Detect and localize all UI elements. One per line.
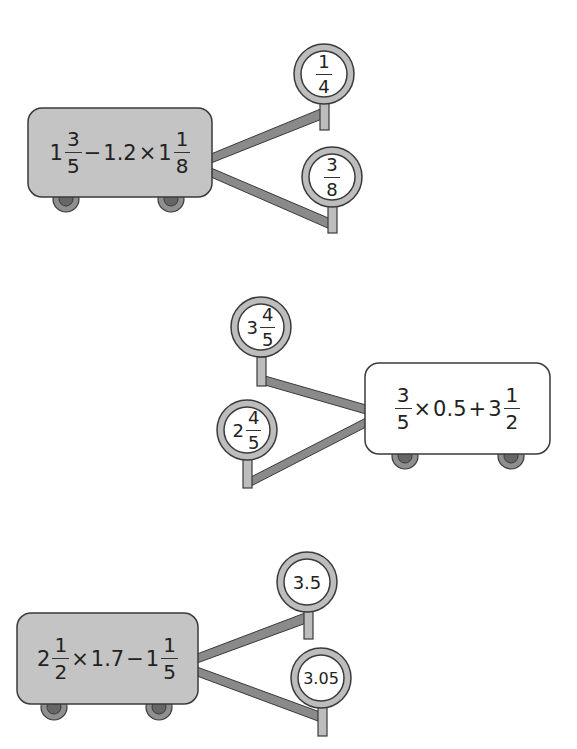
operator: −: [84, 141, 102, 165]
whole-number: 1: [50, 141, 63, 165]
decimal: 1.7: [91, 647, 124, 671]
denominator: 5: [246, 431, 261, 452]
whole-number: 2: [233, 420, 244, 441]
cart-3-expression: 2 1 2 × 1.7 − 1 1 5: [17, 613, 198, 704]
denominator: 5: [65, 153, 82, 176]
fraction: 1 5: [161, 635, 178, 682]
worksheet-diagram: 1 3 5 − 1.2 × 1 1 8 1 4 3 8 3 5 × 0.5 +: [0, 0, 577, 749]
whole-number: 3: [247, 317, 258, 338]
cart-3-post-lower: [318, 707, 327, 736]
cart-1-answer-2: 3 8: [309, 154, 355, 200]
fraction: 1 2: [504, 385, 521, 432]
cart-3-link-upper: [197, 613, 309, 663]
fraction: 1 4: [316, 53, 331, 96]
cart-2-answer-2: 2 4 5: [224, 407, 270, 453]
cart-3-post-upper: [304, 611, 313, 639]
numerator: 1: [504, 385, 521, 409]
cart-2-post-upper: [257, 357, 266, 386]
cart-1-expression: 1 3 5 − 1.2 × 1 1 8: [28, 108, 212, 197]
denominator: 2: [504, 409, 521, 432]
answer-value: 3.5: [293, 572, 322, 593]
operator: ×: [139, 141, 157, 165]
operator: ×: [414, 397, 432, 421]
numerator: 3: [324, 156, 339, 178]
denominator: 2: [52, 659, 69, 682]
denominator: 8: [324, 178, 339, 199]
numerator: 3: [395, 385, 412, 409]
fraction: 3 5: [395, 385, 412, 432]
fraction: 4 5: [260, 306, 275, 349]
cart-2-post-lower: [243, 459, 252, 488]
whole-number: 1: [158, 141, 171, 165]
cart-3-answer-2: 3.05: [298, 655, 344, 701]
decimal: 0.5: [433, 397, 466, 421]
numerator: 1: [52, 635, 69, 659]
operator: +: [469, 397, 487, 421]
numerator: 1: [161, 635, 178, 659]
operator: −: [126, 647, 144, 671]
fraction: 3 5: [65, 129, 82, 176]
numerator: 3: [65, 129, 82, 153]
whole-number: 3: [488, 397, 501, 421]
cart-3-answer-1: 3.5: [284, 559, 330, 605]
cart-2-link-upper: [265, 376, 366, 414]
numerator: 1: [316, 53, 331, 75]
fraction: 1 2: [52, 635, 69, 682]
denominator: 5: [395, 409, 412, 432]
denominator: 4: [316, 75, 331, 96]
fraction: 3 8: [324, 156, 339, 199]
cart-1-post-upper: [320, 103, 329, 130]
numerator: 4: [246, 409, 261, 431]
cart-1-answer-1: 1 4: [301, 51, 347, 97]
cart-2-expression: 3 5 × 0.5 + 3 1 2: [365, 363, 550, 454]
fraction: 1 8: [174, 129, 191, 176]
operator: ×: [71, 647, 89, 671]
cart-2-answer-1: 3 4 5: [238, 304, 284, 350]
numerator: 1: [174, 129, 191, 153]
numerator: 4: [260, 306, 275, 328]
decimal: 1.2: [103, 141, 136, 165]
whole-number: 2: [37, 647, 50, 671]
denominator: 8: [174, 153, 191, 176]
cart-1-post-lower: [328, 206, 337, 233]
answer-value: 3.05: [303, 669, 339, 688]
denominator: 5: [260, 328, 275, 349]
denominator: 5: [161, 659, 178, 682]
whole-number: 1: [146, 647, 159, 671]
fraction: 4 5: [246, 409, 261, 452]
